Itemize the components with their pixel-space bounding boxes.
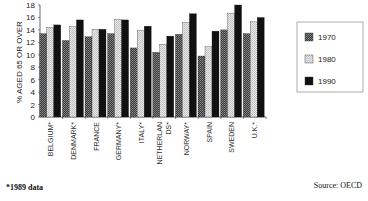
bar-1970 — [62, 40, 69, 117]
x-tick-label: FRANCE — [93, 122, 100, 151]
x-axis-labels: BELGIUM*DENMARK*FRANCEGERMANY*ITALY*NETH… — [47, 117, 266, 164]
bar-1980 — [137, 31, 144, 117]
bar-1990 — [167, 36, 174, 117]
bar-1980 — [92, 29, 99, 117]
legend-swatch-1980 — [305, 55, 313, 63]
legend: 197019801990 — [297, 22, 363, 92]
x-tick-label: U.K.* — [251, 122, 258, 139]
legend-swatch-1990 — [305, 77, 313, 85]
bar-1990 — [122, 20, 129, 117]
bar-1980 — [160, 44, 167, 117]
bar-1990 — [235, 5, 242, 117]
y-tick-label: 16 — [26, 13, 35, 22]
x-tick-label: GERMANY* — [115, 122, 122, 160]
bar-1980 — [182, 22, 189, 117]
bar-1970 — [153, 52, 160, 117]
bar-1980 — [205, 47, 212, 117]
legend-label-1970: 1970 — [318, 33, 336, 42]
bar-1970 — [40, 34, 47, 117]
legend-label-1990: 1990 — [318, 77, 336, 86]
bar-1980 — [115, 19, 122, 117]
bar-1990 — [189, 14, 196, 117]
bar-chart: 024681012141618 BELGIUM*DENMARK*FRANCEGE… — [0, 0, 368, 201]
legend-label-1980: 1980 — [318, 55, 336, 64]
x-tick-label: SWEDEN — [228, 122, 235, 153]
footnote: *1989 data — [6, 183, 43, 192]
y-tick-label: 2 — [31, 101, 36, 110]
bar-1970 — [175, 34, 182, 117]
bar-1970 — [85, 37, 92, 117]
bar-1990 — [212, 31, 219, 117]
bar-1970 — [108, 34, 115, 117]
bar-1980 — [47, 27, 54, 117]
bar-1990 — [99, 29, 106, 117]
x-tick-label: SPAIN — [206, 122, 213, 143]
source-note: Source: OECD — [314, 181, 362, 190]
x-tick-label: DENMARK* — [70, 122, 77, 160]
x-tick-label: DS* — [165, 122, 172, 135]
x-tick-label: BELGIUM* — [47, 122, 54, 157]
y-tick-label: 4 — [31, 88, 36, 97]
bar-1970 — [198, 56, 205, 117]
bars — [40, 5, 264, 117]
y-tick-label: 6 — [31, 76, 36, 85]
bar-1980 — [69, 27, 76, 117]
bar-1970 — [221, 30, 228, 117]
bar-1990 — [257, 17, 264, 117]
bar-1970 — [130, 48, 137, 117]
y-tick-label: 0 — [31, 113, 36, 122]
bar-1980 — [250, 22, 257, 117]
y-tick-label: 14 — [26, 26, 35, 35]
bar-1990 — [76, 20, 83, 117]
legend-swatch-1970 — [305, 33, 313, 41]
bar-1970 — [243, 34, 250, 117]
x-tick-label: NETHERLAN — [156, 122, 163, 164]
x-tick-label: NORWAY* — [183, 122, 190, 156]
bar-1990 — [144, 26, 151, 117]
y-tick-label: 10 — [26, 51, 35, 60]
y-tick-label: 18 — [26, 1, 35, 10]
y-axis-label: % AGED 65 OR OVER — [15, 21, 24, 103]
bar-1980 — [228, 13, 235, 117]
bar-1990 — [54, 25, 61, 117]
y-tick-label: 8 — [31, 63, 36, 72]
x-tick-label: ITALY* — [138, 122, 145, 143]
y-tick-label: 12 — [26, 38, 35, 47]
